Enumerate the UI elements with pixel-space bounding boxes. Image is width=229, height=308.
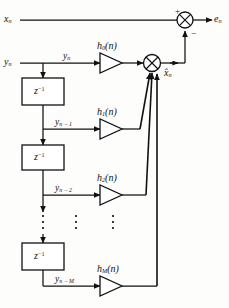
gain-triangle-h2 xyxy=(100,185,122,205)
gain-label-h0: h0(n) xyxy=(97,40,117,51)
label-tapM: yn − M xyxy=(55,274,74,284)
gain-label-hM: hM(n) xyxy=(97,263,119,274)
gain-triangle-h1 xyxy=(100,119,122,139)
adder-plus-sign: + xyxy=(175,6,180,16)
ellipsis-gains xyxy=(112,215,114,229)
delay-label-3: z−1 xyxy=(34,250,45,261)
ellipsis-tapline xyxy=(42,215,44,229)
label-en: en xyxy=(214,13,222,24)
delay-label-1: z−1 xyxy=(34,85,45,96)
label-xhat: x̂n xyxy=(164,67,172,78)
label-tap0: yn xyxy=(63,51,70,61)
delay-label-2: z−1 xyxy=(34,151,45,162)
figure-canvas: xn en + − yn yn x̂n yn − 1 yn − 2 yn − M… xyxy=(0,0,229,308)
gain-triangle-hM xyxy=(100,276,122,296)
gain-label-h1: h1(n) xyxy=(97,106,117,117)
wire-h1-diag xyxy=(140,73,150,129)
label-tap1: yn − 1 xyxy=(55,117,72,127)
label-yn-input: yn xyxy=(4,56,12,67)
adder-minus-sign: − xyxy=(191,28,196,38)
gain-triangle-h0 xyxy=(100,53,122,73)
label-xn: xn xyxy=(4,13,12,24)
ellipsis-taplabels xyxy=(75,215,77,229)
gain-label-h2: h2(n) xyxy=(97,172,117,183)
label-tap2: yn − 2 xyxy=(55,183,72,193)
